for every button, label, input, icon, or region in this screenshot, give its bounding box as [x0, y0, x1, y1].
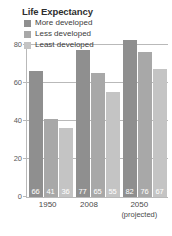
bar-value-label: 76	[141, 188, 149, 198]
chart-title: Life Expectancy	[22, 6, 93, 17]
category-label-2050: 2050 (projected)	[121, 200, 157, 219]
legend-label: More developed	[35, 18, 92, 28]
bar-least-developed[interactable]: 36	[59, 128, 73, 197]
bar-less-developed[interactable]: 65	[91, 73, 105, 197]
bar-value-label: 41	[47, 188, 55, 198]
category-label-2008: 2008	[80, 200, 98, 219]
category-label-1950: 1950	[39, 200, 57, 219]
bar-value-label: 66	[32, 188, 40, 198]
bar-less-developed[interactable]: 76	[138, 52, 152, 197]
y-tick-label: 0	[18, 192, 22, 201]
legend-item-least-developed: Least developed	[24, 40, 94, 50]
bar-least-developed[interactable]: 67	[153, 69, 167, 197]
plot-area: 80 60 40 20 0 66 41 36	[26, 44, 168, 197]
bar-group-2050: 82 76 67	[123, 44, 167, 197]
legend-item-less-developed: Less developed	[24, 29, 94, 39]
bar-more-developed[interactable]: 82	[123, 40, 137, 197]
legend-swatch-icon	[24, 20, 31, 27]
legend-label: Less developed	[35, 29, 91, 39]
y-tick-label: 80	[14, 40, 22, 49]
bar-value-label: 36	[62, 188, 70, 198]
bar-groups: 66 41 36 77 65 55	[27, 44, 168, 197]
bar-value-label: 77	[79, 188, 87, 198]
legend-swatch-icon	[24, 31, 31, 38]
y-tick-label: 40	[14, 116, 22, 125]
y-tick-label: 20	[14, 154, 22, 163]
y-tick-label: 60	[14, 78, 22, 87]
category-label-2050-year: 2050	[130, 200, 148, 209]
legend-item-more-developed: More developed	[24, 18, 94, 28]
chart-legend: More developed Less developed Least deve…	[24, 18, 94, 51]
x-axis-line	[26, 197, 168, 198]
bar-least-developed[interactable]: 55	[106, 92, 120, 197]
bar-group-2008: 77 65 55	[76, 44, 120, 197]
bar-value-label: 67	[156, 188, 164, 198]
bar-less-developed[interactable]: 41	[44, 119, 58, 197]
bar-more-developed[interactable]: 66	[29, 71, 43, 197]
bar-group-1950: 66 41 36	[29, 44, 73, 197]
category-label-2050-sub: (projected)	[121, 210, 157, 219]
bar-more-developed[interactable]: 77	[76, 50, 90, 197]
legend-label: Least developed	[35, 40, 94, 50]
bar-value-label: 55	[109, 188, 117, 198]
legend-swatch-icon	[24, 42, 31, 49]
life-expectancy-chart: Life Expectancy More developed Less deve…	[0, 0, 172, 236]
x-axis-labels: 1950 2008 2050 (projected)	[27, 200, 169, 219]
bar-value-label: 65	[94, 188, 102, 198]
bar-value-label: 82	[126, 188, 134, 198]
